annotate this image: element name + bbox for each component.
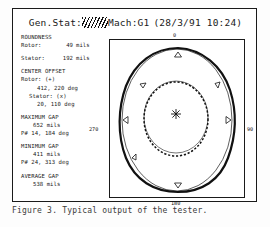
hatched-field-icon <box>82 17 108 28</box>
center-offset-block: CENTER OFFSET Rotor: (+) 412, 220 deg St… <box>21 67 105 108</box>
gap-marker-180deg-icon <box>175 183 182 188</box>
roundness-rotor-row: Rotor: 49 mils <box>21 41 105 49</box>
figure-frame: Gen.Stat:Mach:G1(28/3/91 10:24) ROUNDNES… <box>12 8 257 202</box>
center-offset-stator-value: 20, 110 deg <box>21 100 105 108</box>
header-row: Gen.Stat:Mach:G1(28/3/91 10:24) <box>13 14 258 30</box>
stator-bore-profile-thick <box>120 48 235 192</box>
figure-caption: Figure 3. Typical output of the tester. <box>12 206 257 215</box>
average-gap-block: AVERAGE GAP 538 mils <box>21 172 105 188</box>
roundness-stator-value: 192 <box>55 54 73 62</box>
minimum-gap-block: MINIMUM GAP 411 mils P# 24, 313 deg <box>21 142 105 166</box>
roundness-stator-unit: mils <box>73 54 90 62</box>
average-gap-value: 538 mils <box>21 180 105 188</box>
roundness-block: ROUNDNESS Rotor: 49 mils Stator: 192 mil… <box>21 33 105 62</box>
center-offset-marker-icon <box>171 109 181 119</box>
roundness-stator-row: Stator: 192 mils <box>21 54 105 62</box>
gap-marker-225deg-icon <box>132 154 136 160</box>
gen-stat-label: Gen.Stat: <box>29 17 82 28</box>
center-offset-title: CENTER OFFSET <box>21 67 105 75</box>
timestamp-label: (28/3/91 10:24) <box>149 17 242 28</box>
degree-label-90: 90 <box>247 126 253 132</box>
gap-marker-45deg-icon <box>215 82 220 88</box>
roundness-rotor-key: Rotor: <box>21 41 55 49</box>
average-gap-title: AVERAGE GAP <box>21 172 105 180</box>
gap-marker-270deg-icon <box>123 117 128 124</box>
roundness-title: ROUNDNESS <box>21 33 105 41</box>
data-panel: ROUNDNESS Rotor: 49 mils Stator: 192 mil… <box>21 33 105 193</box>
minimum-gap-value: 411 mils <box>21 150 105 158</box>
center-offset-rotor-value: 412, 220 deg <box>21 84 105 92</box>
roundness-rotor-value: 49 <box>55 41 73 49</box>
gap-marker-0deg-icon <box>175 52 182 57</box>
gap-marker-135deg-icon <box>140 83 146 88</box>
reference-circle-thin <box>122 49 232 191</box>
degree-label-0: 0 <box>173 32 176 38</box>
maximum-gap-title: MAXIMUM GAP <box>21 113 105 121</box>
minimum-gap-position: P# 24, 313 deg <box>21 158 105 166</box>
polar-plot-svg <box>110 40 246 199</box>
roundness-rotor-unit: mils <box>73 41 90 49</box>
screenshot-root: Gen.Stat:Mach:G1(28/3/91 10:24) ROUNDNES… <box>0 0 270 227</box>
degree-label-270: 270 <box>89 126 98 132</box>
machine-label: Mach:G1 <box>108 17 149 28</box>
center-offset-stator-key: Stator: (x) <box>21 92 105 100</box>
minimum-gap-title: MINIMUM GAP <box>21 142 105 150</box>
gap-marker-90deg-icon <box>226 117 231 124</box>
roundness-stator-key: Stator: <box>21 54 55 62</box>
polar-plot-box <box>109 39 245 198</box>
center-offset-rotor-key: Rotor: (+) <box>21 75 105 83</box>
